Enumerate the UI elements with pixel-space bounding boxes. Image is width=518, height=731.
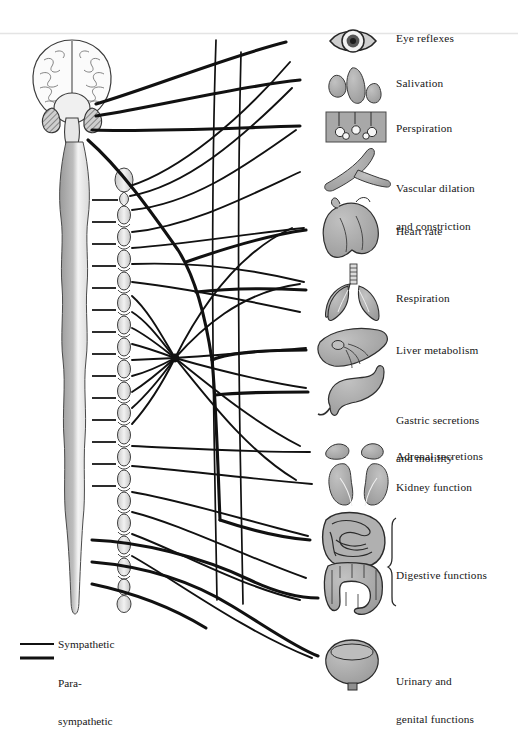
label-respiration: Respiration <box>396 292 450 305</box>
label-urinary-line1: Urinary and <box>396 675 474 688</box>
legend-label-parasympathetic: Para- sympathetic <box>58 652 113 731</box>
label-eye-reflexes: Eye reflexes <box>396 32 454 45</box>
legend-label-sympathetic: Sympathetic <box>58 638 114 651</box>
label-kidney-function: Kidney function <box>396 481 472 494</box>
digestive-bracket <box>388 518 396 606</box>
small-intestine-icon <box>323 513 385 569</box>
skin-sweat-icon <box>326 112 386 142</box>
label-urinary-genital: Urinary and genital functions <box>396 650 474 731</box>
adrenal-icon <box>326 444 384 460</box>
brain-illustration <box>33 40 111 144</box>
label-digestive-functions: Digestive functions <box>396 569 487 582</box>
sympathetic-pathways <box>130 40 312 658</box>
label-vascular-line1: Vascular dilation <box>396 182 475 195</box>
salivary-glands-icon <box>329 68 381 104</box>
label-heart-rate: Heart rate <box>396 225 442 238</box>
kidneys-icon <box>329 464 388 506</box>
liver-icon <box>318 329 387 369</box>
label-adrenal-secretions: Adrenal secretions <box>396 450 483 463</box>
label-perspiration: Perspiration <box>396 122 452 135</box>
spinal-roots <box>92 200 118 486</box>
legend-swatches <box>20 644 54 658</box>
legend-parasym-line2: sympathetic <box>58 715 113 728</box>
legend-parasym-line1: Para- <box>58 677 113 690</box>
stomach-icon <box>318 366 384 416</box>
celiac-ganglion <box>171 354 180 363</box>
bladder-icon <box>326 640 379 690</box>
blood-vessel-icon <box>325 148 391 191</box>
lungs-icon <box>325 264 379 320</box>
sympathetic-chain-illustration <box>115 168 133 613</box>
label-gastric-line1: Gastric secretions <box>396 414 479 427</box>
heart-icon <box>323 198 378 258</box>
spinal-cord-illustration <box>60 142 90 614</box>
label-salivation: Salivation <box>396 77 443 90</box>
label-urinary-line2: genital functions <box>396 713 474 726</box>
label-gastric-secretions: Gastric secretions and motility <box>396 389 479 477</box>
large-intestine-icon <box>324 563 382 615</box>
label-liver-metabolism: Liver metabolism <box>396 344 478 357</box>
